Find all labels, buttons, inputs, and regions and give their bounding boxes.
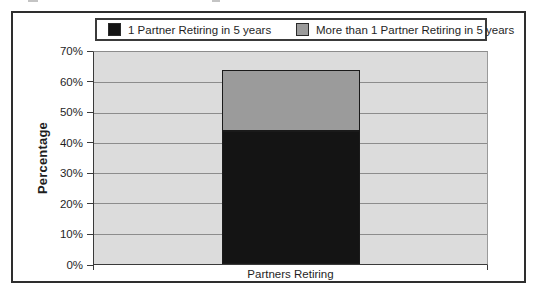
bar-segment-more-than-1-retiring [222, 70, 359, 131]
chart-frame: 1 Partner Retiring in 5 years More than … [11, 11, 526, 283]
y-tick-label-70: 70% [60, 45, 83, 57]
legend-label-more-than-1-partner: More than 1 Partner Retiring in 5 years [316, 24, 514, 36]
cropped-text-artifact [212, 0, 220, 2]
y-tick-label-40: 40% [60, 137, 83, 149]
y-tick-label-10: 10% [60, 228, 83, 240]
y-tick-label-20: 20% [60, 198, 83, 210]
legend-label-1-partner: 1 Partner Retiring in 5 years [128, 24, 271, 36]
figure: 1 Partner Retiring in 5 years More than … [0, 0, 539, 295]
cropped-text-artifact [28, 0, 38, 2]
legend: 1 Partner Retiring in 5 years More than … [95, 18, 487, 41]
legend-swatch-1-partner [108, 23, 121, 36]
legend-item-more-than-1-partner: More than 1 Partner Retiring in 5 years [296, 20, 514, 39]
bar-segment-1-partner-retiring [222, 131, 359, 264]
x-category-label: Partners Retiring [93, 268, 488, 280]
y-tick-label-0: 0% [66, 259, 83, 271]
stacked-bar [222, 52, 359, 264]
legend-swatch-more-than-1-partner [296, 23, 309, 36]
y-axis-ticks: 0%10%20%30%40%50%60%70% [13, 51, 93, 265]
plot-area [93, 51, 488, 265]
y-tick-label-60: 60% [60, 76, 83, 88]
y-tick-label-30: 30% [60, 167, 83, 179]
legend-item-1-partner: 1 Partner Retiring in 5 years [108, 20, 271, 39]
y-tick-label-50: 50% [60, 106, 83, 118]
